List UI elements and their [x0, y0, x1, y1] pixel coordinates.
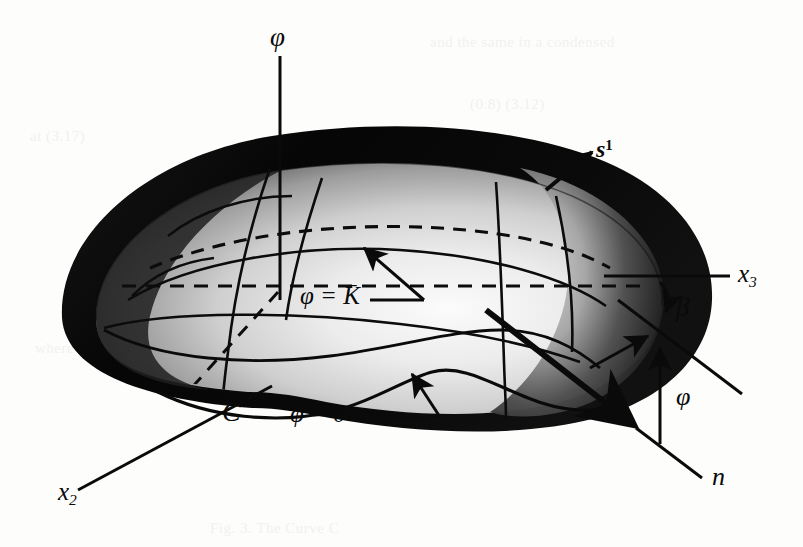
shell-surface-figure: [0, 0, 803, 547]
x2-axis-label: x2: [58, 478, 77, 509]
x3-subscript: 3: [749, 273, 757, 290]
beta-angle-label: β: [676, 292, 689, 323]
x2-axis-line: [78, 386, 272, 490]
s1-vector-label: s1: [596, 136, 613, 163]
s1-letter: s: [596, 136, 605, 162]
n-vector-tail: [636, 428, 702, 478]
x3-axis-label: x3: [738, 260, 757, 291]
phi-zero-label: φ = 0: [290, 400, 346, 428]
x2-letter: x: [58, 478, 69, 505]
s1-superscript: 1: [605, 137, 612, 153]
n-vector-label: n: [712, 462, 725, 492]
phi-axis-label: φ: [270, 22, 285, 53]
curve-c-label: C: [222, 396, 241, 428]
phi-kbar-label: φ = K̄: [300, 282, 360, 310]
x3-letter: x: [738, 260, 749, 287]
phi-height-label: φ: [676, 382, 690, 412]
dome-surface: [62, 126, 712, 431]
x2-subscript: 2: [69, 491, 77, 508]
